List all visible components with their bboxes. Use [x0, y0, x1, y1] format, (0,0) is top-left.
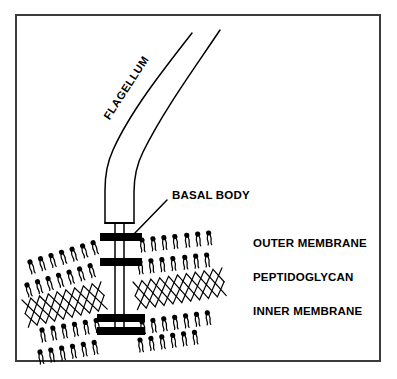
c-ring [97, 327, 145, 335]
inner-membrane-right [137, 310, 212, 352]
peptidoglycan-right [133, 268, 226, 310]
l-ring [100, 233, 142, 241]
diagram-page: FLAGELLUM BASAL BODY OUTER MEMBRANE PEPT… [0, 0, 397, 379]
basal-body [97, 223, 145, 335]
inner-membrane-label: INNER MEMBRANE [253, 305, 363, 317]
outer-membrane-label: OUTER MEMBRANE [253, 237, 367, 249]
inner-membrane-left [37, 317, 101, 364]
outer-membrane-left [24, 239, 99, 297]
basal-body-label: BASAL BODY [172, 189, 250, 201]
ms-ring [97, 314, 145, 322]
peptidoglycan-label: PEPTIDOGLYCAN [253, 271, 354, 283]
basal-body-leader-line [134, 200, 167, 234]
outer-membrane-right [137, 230, 212, 274]
p-ring [100, 258, 142, 266]
